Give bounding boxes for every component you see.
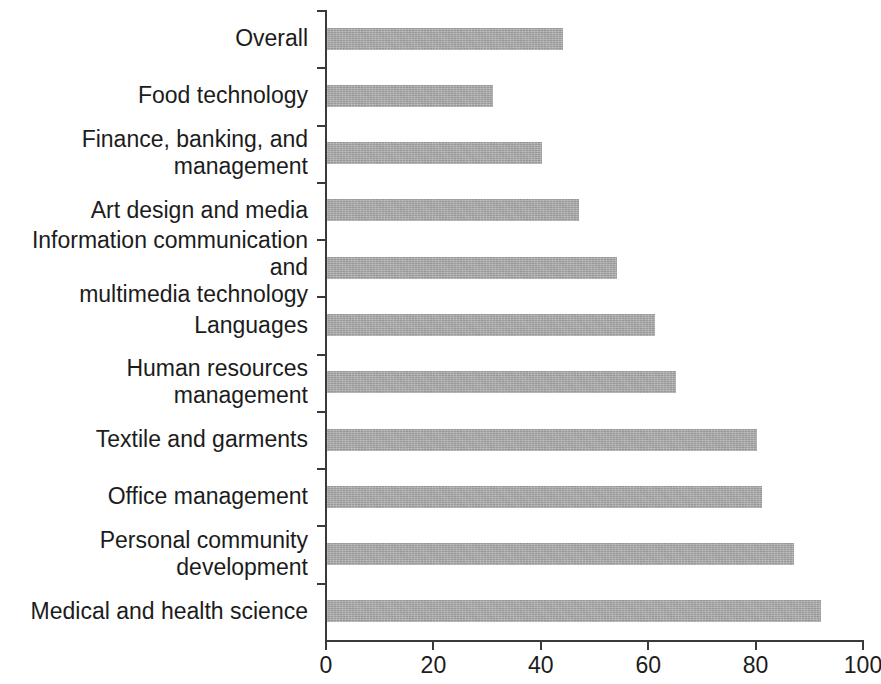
x-axis-tick-60 [647,641,649,650]
y-axis-tick [317,354,326,356]
bar-languages [327,314,655,336]
bar-office-management [327,486,762,508]
plot-area: OverallFood technologyFinance, banking, … [0,0,881,684]
x-axis-tick-0 [325,641,327,650]
y-axis-label-finance-banking-and-management: Finance, banking, and management [0,126,308,180]
y-axis-tick [317,525,326,527]
y-axis-label-languages: Languages [0,312,308,339]
x-axis-tick-80 [755,641,757,650]
y-axis-tick [317,468,326,470]
x-axis-tick-label-20: 20 [421,652,447,679]
y-axis-tick-top [317,10,326,12]
y-axis-tick [317,182,326,184]
bar-information-communication-and-multimedia-technology [327,257,617,279]
y-axis-tick [317,583,326,585]
x-axis-tick-100 [862,641,864,650]
y-axis-label-medical-and-health-science: Medical and health science [0,598,308,625]
x-axis-tick-label-0: 0 [320,652,333,679]
y-axis-label-art-design-and-media: Art design and media [0,197,308,224]
bar-human-resources-management [327,371,676,393]
bar-personal-community-development [327,543,794,565]
y-axis-label-office-management: Office management [0,483,308,510]
x-axis-tick-label-100: 100 [844,652,881,679]
x-axis-tick-label-40: 40 [528,652,554,679]
x-axis-tick-label-80: 80 [743,652,769,679]
y-axis-label-information-communication-and-multimedia-technology: Information communication and multimedia… [0,227,308,308]
x-axis-spine [325,640,864,642]
bar-overall [327,28,563,50]
y-axis-label-textile-and-garments: Textile and garments [0,426,308,453]
x-axis-tick-label-60: 60 [635,652,661,679]
y-axis-label-human-resources-management: Human resources management [0,355,308,409]
bar-medical-and-health-science [327,600,821,622]
bar-art-design-and-media [327,199,579,221]
bar-chart: OverallFood technologyFinance, banking, … [0,0,881,684]
bar-food-technology [327,85,493,107]
y-axis-label-overall: Overall [0,25,308,52]
x-axis-tick-20 [432,641,434,650]
y-axis-tick [317,125,326,127]
y-axis-tick [317,411,326,413]
bar-textile-and-garments [327,429,757,451]
y-axis-label-personal-community-development: Personal community development [0,527,308,581]
x-axis-tick-40 [540,641,542,650]
y-axis-tick [317,67,326,69]
y-axis-tick [317,239,326,241]
bar-finance-banking-and-management [327,142,542,164]
y-axis-label-food-technology: Food technology [0,82,308,109]
y-axis-tick [317,296,326,298]
